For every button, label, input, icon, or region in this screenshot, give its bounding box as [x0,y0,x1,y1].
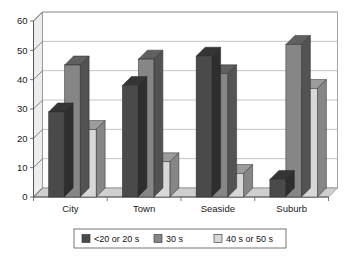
bar-chart: 0102030405060 CityTownSeasideSuburb <20 … [0,0,360,262]
y-tick-label: 0 [22,191,27,202]
chart-legend: <20 or 20 s30 s40 s or 50 s [74,229,286,248]
category-label: Town [133,203,155,214]
y-tick-label: 10 [17,162,28,173]
bar [49,103,74,197]
legend-swatch [154,235,162,243]
legend-swatch [82,235,90,243]
bar [122,77,147,197]
category-label: Seaside [201,203,235,214]
legend-label: 30 s [166,234,184,244]
legend-label: 40 s or 50 s [226,234,274,244]
category-label: Suburb [276,203,307,214]
legend-label: <20 or 20 s [94,234,140,244]
bar [196,47,221,197]
y-tick-label: 50 [17,45,28,56]
chart-canvas: 0102030405060 CityTownSeasideSuburb <20 … [0,0,360,262]
y-tick-label: 20 [17,133,28,144]
y-tick-label: 30 [17,103,28,114]
y-tick-label: 60 [17,15,28,26]
legend-swatch [214,235,222,243]
y-tick-label: 40 [17,74,28,85]
legend-item[interactable]: 30 s [154,234,184,244]
category-label: City [62,203,79,214]
legend-items: <20 or 20 s30 s40 s or 50 s [82,234,274,244]
